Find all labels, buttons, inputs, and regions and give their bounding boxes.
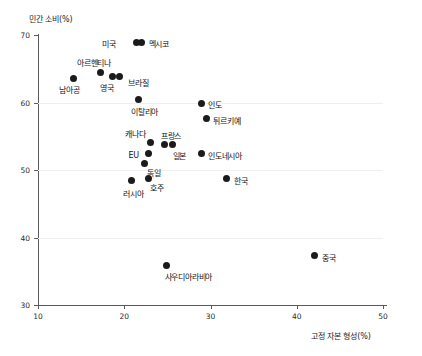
data-point-label: 프랑스	[161, 130, 181, 141]
x-tick-label: 30	[199, 312, 223, 321]
data-point-label: 영국	[100, 82, 114, 93]
x-tick-mark	[297, 305, 298, 309]
data-point-label: 사우디아라비아	[165, 271, 213, 282]
data-point-label: 튀르키예	[213, 115, 240, 126]
data-points: 미국멕시코아르헨티나영국브라질남아공이탈리아인도튀르키예캐나다프랑스일본EU인도…	[38, 35, 383, 305]
data-point-label: 이탈리아	[131, 106, 158, 117]
y-tick-mark	[34, 238, 38, 239]
data-point-label: 멕시코	[149, 38, 169, 49]
data-point-label: EU	[128, 151, 139, 160]
data-point-label: 인도네시아	[208, 150, 242, 161]
data-point-label: 인도	[208, 99, 222, 110]
x-tick-mark	[124, 305, 125, 309]
scatter-chart: 민간 소비(%) 고정 자본 형성(%) 미국멕시코아르헨티나영국브라질남아공이…	[0, 0, 422, 356]
x-axis-line	[38, 305, 387, 306]
data-point	[97, 69, 104, 76]
data-point	[141, 160, 148, 167]
x-tick-label: 10	[26, 312, 50, 321]
data-point	[135, 96, 142, 103]
data-point-label: 러시아	[123, 188, 143, 199]
data-point-label: 캐나다	[125, 128, 145, 139]
data-point-label: 남아공	[59, 84, 79, 95]
data-point-label: 일본	[173, 150, 187, 161]
x-tick-mark	[383, 305, 384, 309]
x-tick-label: 40	[285, 312, 309, 321]
data-point	[163, 262, 170, 269]
y-tick-label: 60	[10, 99, 30, 108]
data-point	[116, 73, 123, 80]
x-tick-mark	[211, 305, 212, 309]
x-tick-label: 20	[112, 312, 136, 321]
data-point-label: 아르헨티나	[77, 57, 111, 68]
y-tick-mark	[34, 103, 38, 104]
data-point	[198, 150, 205, 157]
data-point	[138, 39, 145, 46]
x-axis-title: 고정 자본 형성(%)	[311, 330, 371, 341]
data-point	[223, 175, 230, 182]
data-point	[147, 139, 154, 146]
y-tick-label: 40	[10, 234, 30, 243]
data-point	[145, 150, 152, 157]
y-axis-title: 민간 소비(%)	[29, 13, 73, 24]
y-tick-label: 50	[10, 166, 30, 175]
data-point	[161, 141, 168, 148]
y-tick-label: 70	[10, 31, 30, 40]
data-point-label: 한국	[234, 175, 248, 186]
x-tick-mark	[38, 305, 39, 309]
data-point-label: 호주	[150, 182, 164, 193]
data-point	[311, 252, 318, 259]
data-point	[169, 141, 176, 148]
data-point	[128, 177, 135, 184]
data-point-label: 중국	[322, 252, 336, 263]
data-point-label: 미국	[102, 38, 116, 49]
y-tick-mark	[34, 170, 38, 171]
data-point	[109, 73, 116, 80]
y-tick-mark	[34, 35, 38, 36]
y-tick-label: 30	[10, 301, 30, 310]
data-point	[70, 75, 77, 82]
x-tick-label: 50	[371, 312, 395, 321]
data-point	[203, 115, 210, 122]
data-point	[198, 100, 205, 107]
data-point-label: 브라질	[128, 77, 148, 88]
data-point	[145, 175, 152, 182]
